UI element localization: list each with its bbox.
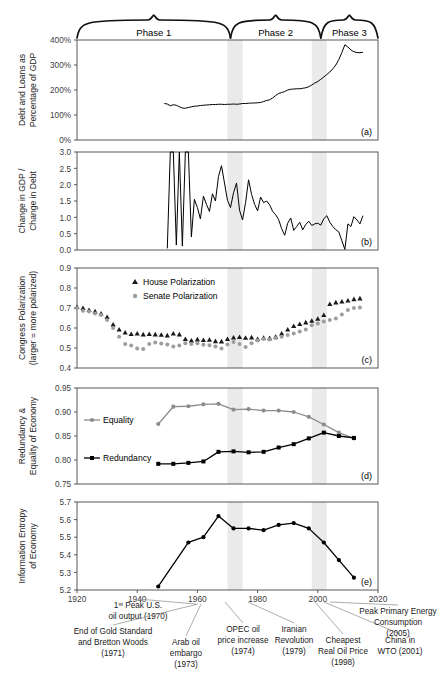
annotation-label-gold-standard-1971: and Bretton Woods <box>78 638 148 647</box>
y-axis-title: Congress Polarization <box>17 276 27 360</box>
data-point-senate <box>135 346 139 350</box>
data-point-senate <box>340 312 344 316</box>
data-point-house <box>183 336 188 341</box>
panel-a: 0%100%200%300%400%Debt and Loans asPerce… <box>17 36 379 145</box>
data-point-marker <box>246 526 250 530</box>
data-point-marker <box>307 415 311 419</box>
shaded-band-2 <box>312 40 327 140</box>
data-point-senate <box>358 306 362 310</box>
phase-label-1: Phase 1 <box>136 27 171 38</box>
data-point-senate <box>195 341 199 345</box>
data-point-senate <box>165 343 169 347</box>
y-tick-label: 0.5 <box>60 230 72 239</box>
y-tick-label: 0.75 <box>55 480 71 489</box>
data-point-senate <box>256 338 260 342</box>
data-point-marker <box>156 422 160 426</box>
data-point-senate <box>189 342 193 346</box>
data-point-senate <box>117 335 121 339</box>
data-point-marker <box>171 405 175 409</box>
leader-line-arab-oil-embargo-1973 <box>186 604 201 636</box>
annotation-label-cheapest-real-oil-1998: Real Oil Price <box>318 647 368 656</box>
data-point-house <box>351 297 356 302</box>
annotation-group: 1ˢᵗ Peak U.S.oil output (1970)End of Gol… <box>74 599 438 669</box>
data-point-senate <box>286 333 290 337</box>
data-point-marker <box>156 584 160 588</box>
data-point-marker <box>216 450 220 454</box>
data-point-senate <box>177 344 181 348</box>
data-point-marker <box>307 526 311 530</box>
legend-marker-redundancy <box>90 456 94 460</box>
data-point-marker <box>322 540 326 544</box>
shaded-band-2 <box>312 502 327 590</box>
data-point-senate <box>99 313 103 317</box>
y-tick-label: 300% <box>50 61 71 70</box>
data-point-senate <box>81 309 85 313</box>
data-point-house <box>153 332 158 337</box>
panel-tag: (c) <box>362 355 373 365</box>
annotation-label-iranian-revolution-1979: Revolution <box>275 636 314 645</box>
data-point-marker <box>216 402 220 406</box>
panel-tag: (d) <box>361 471 372 481</box>
annotation-label-peak-primary-energy-2005: Consumption <box>374 618 423 627</box>
y-tick-label: 5.3 <box>60 569 72 578</box>
data-point-senate <box>316 322 320 326</box>
y-tick-label: 1.0 <box>60 214 72 223</box>
y-axis-title: Redundancy & <box>17 408 27 465</box>
panel-e: 5.25.35.45.55.65.7Information Entropyof … <box>17 498 379 595</box>
data-point-marker <box>231 526 235 530</box>
y-tick-label: 1.5 <box>60 197 72 206</box>
data-point-senate <box>147 342 151 346</box>
data-point-senate <box>141 347 145 351</box>
data-point-senate <box>201 343 205 347</box>
data-point-senate <box>219 346 223 350</box>
annotation-label-opec-oil-price-1974: OPEC oil <box>226 625 260 634</box>
data-point-marker <box>156 462 160 466</box>
y-tick-label: 0% <box>59 136 71 145</box>
y-axis-title: Debt and Loans as <box>17 54 27 126</box>
data-point-house <box>159 332 164 337</box>
y-tick-label: 2.0 <box>60 181 72 190</box>
y-tick-label: 5.4 <box>60 551 72 560</box>
data-point-marker <box>307 436 311 440</box>
panel-tag: (a) <box>361 127 372 137</box>
y-tick-label: 0.4 <box>60 364 72 373</box>
data-point-marker <box>352 576 356 580</box>
x-tick-label: 1960 <box>188 594 207 604</box>
y-tick-label: 0.80 <box>55 456 71 465</box>
data-point-marker <box>232 449 236 453</box>
data-point-house <box>291 323 296 328</box>
y-tick-label: 0.9 <box>60 264 72 273</box>
data-point-marker <box>322 422 326 426</box>
panel-tag: (e) <box>361 577 372 587</box>
data-point-house <box>195 337 200 342</box>
y-tick-label: 0.8 <box>60 284 72 293</box>
y-tick-label: 0.95 <box>55 384 71 393</box>
data-point-house <box>171 331 176 336</box>
data-point-house <box>135 331 140 336</box>
y-tick-label: 0.0 <box>60 246 72 255</box>
y-tick-label: 400% <box>50 36 71 45</box>
shaded-band-1 <box>228 502 243 590</box>
y-axis-title: (larger = more polarized) <box>28 271 38 365</box>
legend-marker-senate <box>133 294 137 298</box>
data-point-senate <box>232 340 236 344</box>
data-point-house <box>303 320 308 325</box>
annotation-label-peak-primary-energy-2005: Peak Primary Energy <box>359 607 437 616</box>
data-point-senate <box>93 312 97 316</box>
annotation-label-opec-oil-price-1974: price increase <box>218 636 269 645</box>
data-point-house <box>339 299 344 304</box>
data-point-senate <box>226 343 230 347</box>
data-point-marker <box>292 410 296 414</box>
data-point-senate <box>159 342 163 346</box>
data-point-marker <box>277 523 281 527</box>
data-point-marker <box>247 450 251 454</box>
data-point-house <box>165 333 170 338</box>
phase-label-2: Phase 2 <box>258 27 293 38</box>
data-point-senate <box>183 341 187 345</box>
leader-line-peak-primary-energy-2005 <box>330 602 398 605</box>
data-point-senate <box>207 343 211 347</box>
data-point-marker <box>246 407 250 411</box>
y-tick-label: 0.5 <box>60 344 72 353</box>
y-axis-title: Information Entropy <box>17 508 27 584</box>
y-axis-title: Percentage of GDP <box>28 52 38 127</box>
